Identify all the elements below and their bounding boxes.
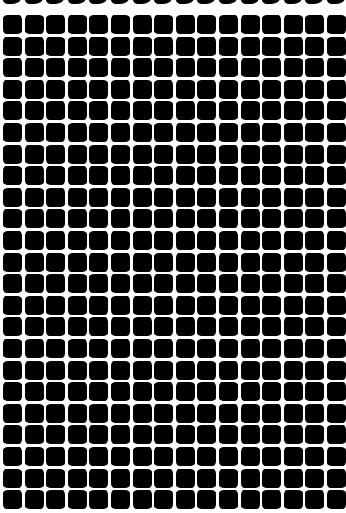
grid-square [262, 361, 281, 380]
grid-square [111, 101, 130, 120]
grid-square [111, 80, 130, 99]
grid-square [3, 123, 22, 142]
grid-square [3, 231, 22, 250]
grid-square [133, 58, 152, 77]
grid-square [3, 15, 22, 34]
grid-square [327, 80, 346, 99]
grid-square [219, 188, 238, 207]
grid-square [262, 447, 281, 466]
grid-square [327, 296, 346, 315]
grid-square [262, 80, 281, 99]
grid-square [305, 469, 324, 488]
grid-square [133, 166, 152, 185]
grid-square [46, 490, 65, 509]
partial-square-mark [197, 0, 215, 4]
grid-square [25, 469, 44, 488]
grid-square [176, 15, 195, 34]
grid-square [327, 274, 346, 293]
grid-square [262, 274, 281, 293]
grid-square [176, 361, 195, 380]
partial-square-mark [154, 0, 172, 4]
grid-square [241, 209, 260, 228]
grid-square [3, 447, 22, 466]
grid-square [176, 188, 195, 207]
grid-square [219, 231, 238, 250]
grid-square [219, 447, 238, 466]
grid-square [327, 425, 346, 444]
grid-square [89, 145, 108, 164]
grid-square [154, 101, 173, 120]
grid-square [3, 145, 22, 164]
grid-square [197, 317, 216, 336]
grid-square [133, 382, 152, 401]
grid-square [133, 101, 152, 120]
grid-square [25, 188, 44, 207]
grid-square [133, 425, 152, 444]
grid-square [25, 317, 44, 336]
grid-square [68, 317, 87, 336]
grid-square [219, 123, 238, 142]
grid-square [68, 145, 87, 164]
grid-square [284, 339, 303, 358]
grid-square [89, 339, 108, 358]
grid-square [46, 317, 65, 336]
grid-square [305, 123, 324, 142]
grid-square [3, 404, 22, 423]
grid-square [327, 404, 346, 423]
grid-square [89, 490, 108, 509]
grid-square [46, 58, 65, 77]
grid-square [89, 382, 108, 401]
grid-square [68, 296, 87, 315]
grid-square [284, 253, 303, 272]
grid-square [154, 15, 173, 34]
grid-square [327, 469, 346, 488]
grid-square [327, 58, 346, 77]
grid-square [154, 296, 173, 315]
grid-square [68, 404, 87, 423]
grid-square [327, 188, 346, 207]
partial-square-mark [284, 0, 302, 4]
grid-square [284, 166, 303, 185]
grid-square [89, 253, 108, 272]
grid-square [133, 80, 152, 99]
grid-square [68, 382, 87, 401]
grid-square [111, 361, 130, 380]
grid-square [46, 253, 65, 272]
grid-square [46, 231, 65, 250]
grid-square [3, 317, 22, 336]
grid-square [3, 361, 22, 380]
grid-square [25, 425, 44, 444]
top-partial-row [3, 0, 346, 8]
grid-square [154, 274, 173, 293]
partial-square-mark [262, 0, 280, 4]
grid-square [197, 469, 216, 488]
grid-square [241, 101, 260, 120]
grid-square [68, 188, 87, 207]
grid-square [327, 361, 346, 380]
grid-square [133, 253, 152, 272]
grid-square [46, 274, 65, 293]
grid-square [46, 37, 65, 56]
grid-square [327, 209, 346, 228]
grid-square [3, 296, 22, 315]
grid-square [3, 209, 22, 228]
grid-square [25, 296, 44, 315]
grid-square [197, 447, 216, 466]
grid-square [89, 274, 108, 293]
grid-square [305, 339, 324, 358]
grid-square [197, 188, 216, 207]
grid-square [305, 317, 324, 336]
grid-square [68, 37, 87, 56]
grid-square [25, 490, 44, 509]
grid-square [262, 123, 281, 142]
grid-square [111, 469, 130, 488]
partial-square-mark [133, 0, 151, 4]
grid-square [219, 80, 238, 99]
grid-square [25, 382, 44, 401]
grid-square [25, 166, 44, 185]
grid-square [176, 296, 195, 315]
grid-square [327, 15, 346, 34]
grid-square [3, 382, 22, 401]
grid-square [262, 101, 281, 120]
grid-square [68, 425, 87, 444]
